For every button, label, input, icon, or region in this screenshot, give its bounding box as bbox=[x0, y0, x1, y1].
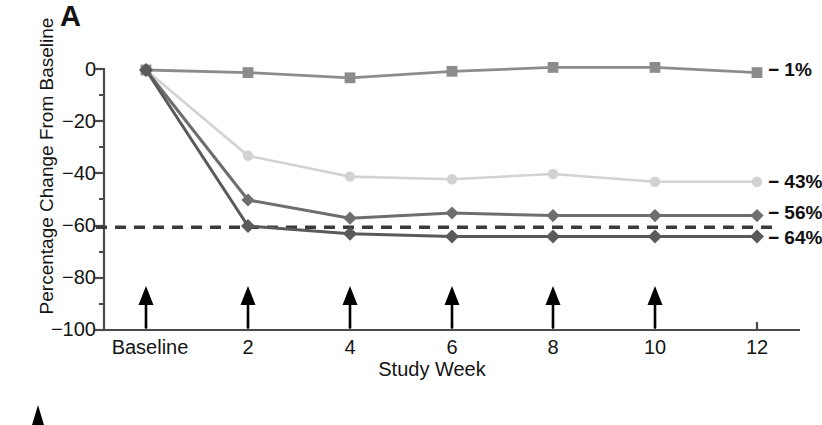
end-label-series-1: − 1% bbox=[768, 59, 812, 81]
series-2-markers bbox=[141, 65, 762, 187]
dose-arrow-week10 bbox=[648, 286, 663, 328]
end-label-series-2: − 43% bbox=[768, 171, 822, 193]
end-label-series-4: − 64% bbox=[768, 227, 822, 249]
dose-arrow-week4 bbox=[343, 286, 358, 328]
series-2-line bbox=[141, 65, 762, 187]
dose-arrow-week6 bbox=[445, 286, 460, 328]
next-panel-arrow-fragment bbox=[32, 405, 44, 425]
dosing-arrows bbox=[139, 286, 663, 328]
dose-arrow-week8 bbox=[546, 286, 561, 328]
series-1-line bbox=[141, 62, 763, 83]
end-label-series-3: − 56% bbox=[768, 202, 822, 224]
dose-arrow-baseline bbox=[139, 286, 154, 328]
dose-arrow-week2 bbox=[241, 286, 256, 328]
